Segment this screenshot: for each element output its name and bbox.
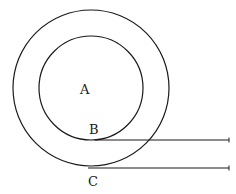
label-c: C: [88, 174, 98, 189]
outer-circle: [13, 10, 169, 166]
label-b: B: [89, 122, 99, 137]
label-a: A: [79, 82, 90, 97]
diagram-canvas: A B C: [0, 0, 236, 194]
